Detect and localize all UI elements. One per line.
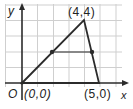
vertex-label-origin: (0,0): [24, 87, 51, 101]
vertex-label-apex: (4,4): [68, 5, 95, 19]
vertex-label-right: (5,0): [84, 87, 111, 101]
y-axis-label: y: [7, 4, 15, 18]
midpoint-right: [90, 50, 94, 54]
origin-point: [20, 81, 23, 84]
coordinate-diagram: y x O (0,0) (4,4) (5,0): [0, 0, 133, 109]
x-axis-label: x: [120, 89, 127, 101]
x-axis-arrow-icon: [122, 80, 129, 86]
origin-label: O: [8, 87, 17, 101]
y-axis-arrow-icon: [19, 3, 25, 10]
midpoint-left: [50, 50, 54, 54]
